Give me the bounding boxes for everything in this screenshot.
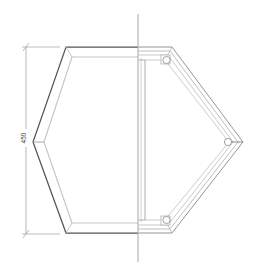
bolt-right-vertex-icon: [224, 138, 231, 145]
frame-inner-opening: [145, 60, 229, 220]
bolt-bottom-right-icon: [163, 216, 170, 223]
left-vertex-inner-accent: [44, 57, 72, 223]
frame-profile-line-3: [138, 55, 233, 225]
frame-profile-line-2: [138, 51, 238, 229]
mitre-line-top-left: [66, 47, 72, 57]
dimension-overall-height: 450: [20, 43, 60, 238]
left-half-hexagon-body: [33, 47, 138, 233]
fastener-details: [161, 55, 232, 225]
hexagonal-frame-drawing: 450: [0, 0, 257, 273]
inner-hexagon-left-outline: [44, 57, 138, 223]
mitre-line-bottom-left: [66, 223, 72, 233]
bolt-top-right-icon: [163, 56, 170, 63]
technical-drawing-canvas: 450: [0, 0, 257, 273]
dimension-value-450: 450: [20, 132, 27, 143]
outer-hexagon-left-outline: [33, 47, 138, 233]
